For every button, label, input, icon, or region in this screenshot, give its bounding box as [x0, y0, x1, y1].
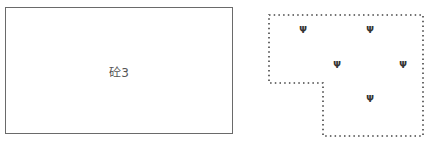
grass-icon: Ψ [366, 95, 374, 104]
vegetation-area-outline [0, 0, 427, 143]
grass-icon: Ψ [333, 61, 341, 70]
grass-icon: Ψ [399, 61, 407, 70]
grass-icon: Ψ [299, 26, 307, 35]
grass-icon: Ψ [366, 26, 374, 35]
